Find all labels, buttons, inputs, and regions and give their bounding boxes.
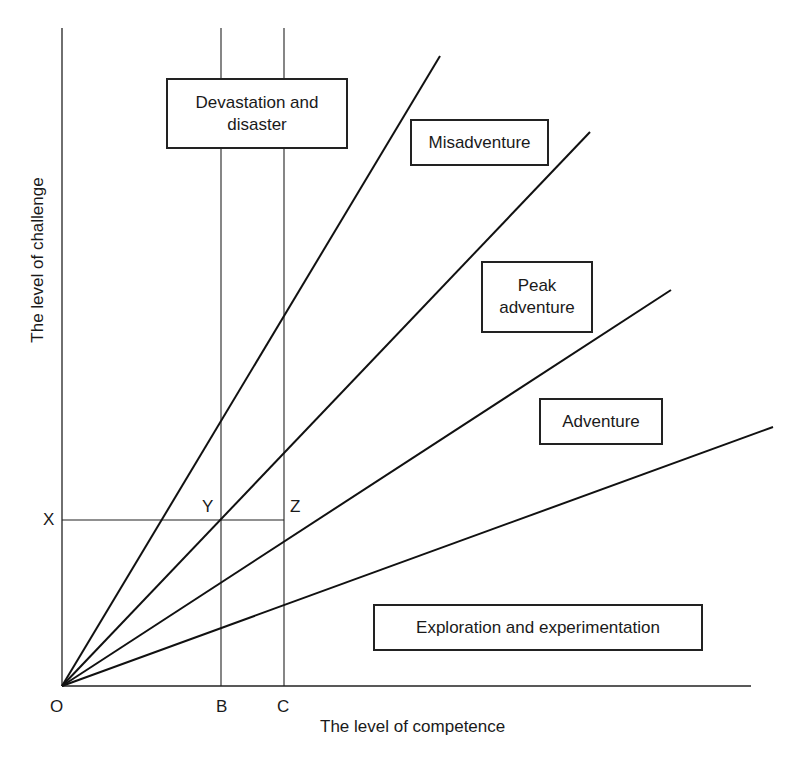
marker-x-label: X xyxy=(43,510,54,530)
region-adventure: Adventure xyxy=(539,398,663,445)
marker-b-label: B xyxy=(216,697,227,717)
peak-label-line2: adventure xyxy=(499,297,575,319)
marker-c-label: C xyxy=(277,697,289,717)
exploration-label: Exploration and experimentation xyxy=(416,617,660,639)
x-axis-title: The level of competence xyxy=(320,717,505,737)
region-misadventure: Misadventure xyxy=(410,119,549,166)
ray-1 xyxy=(62,56,440,686)
y-axis-title: The level of challenge xyxy=(28,177,48,342)
point-z-label: Z xyxy=(290,497,300,517)
ray-2 xyxy=(62,132,590,686)
devastation-label-line2: disaster xyxy=(227,114,287,136)
misadventure-label: Misadventure xyxy=(428,132,530,154)
origin-label: O xyxy=(50,697,63,717)
peak-label-line1: Peak xyxy=(518,275,557,297)
adventure-label: Adventure xyxy=(562,411,640,433)
devastation-label-line1: Devastation and xyxy=(196,92,319,114)
region-peak-adventure: Peak adventure xyxy=(481,261,593,333)
region-devastation-and-disaster: Devastation and disaster xyxy=(166,78,348,149)
region-exploration-and-experimentation: Exploration and experimentation xyxy=(373,604,703,651)
point-y-label: Y xyxy=(202,497,213,517)
